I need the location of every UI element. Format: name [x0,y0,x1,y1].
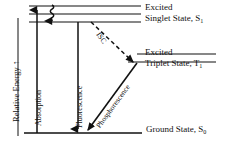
vibrational-relaxation-wavy-arrow [50,5,53,22]
y-axis-label-text: Relative Energy [11,67,21,122]
excited-triplet-label-line1: Excited [145,48,173,57]
excited-triplet-label-line2: Triplet State, T1 [145,59,202,69]
up-arrow-icon: ↑ [11,61,21,65]
phosphorescence-arrow [88,63,137,130]
triplet-label-text: Triplet State, T [145,58,199,68]
isc-dashed-arrow [91,22,133,62]
jablonski-diagram: Relative Energy ↑ Absorption Fluorescenc… [0,0,240,148]
triplet-subscript: 1 [199,63,202,69]
ground-subscript: 0 [203,129,206,135]
ground-state-label: Ground State, S0 [146,125,206,135]
singlet-level-lines [29,6,141,22]
singlet-label-text: Singlet State, S [145,13,200,23]
excited-singlet-label-line1: Excited [145,3,173,12]
ground-label-text: Ground State, S [146,124,203,134]
fluorescence-label: Fluorescence [76,86,84,128]
absorption-label: Absorption [35,90,43,126]
y-axis-label: Relative Energy ↑ [12,61,21,122]
singlet-subscript: 1 [200,18,203,24]
excited-singlet-label-line2: Singlet State, S1 [145,14,203,24]
